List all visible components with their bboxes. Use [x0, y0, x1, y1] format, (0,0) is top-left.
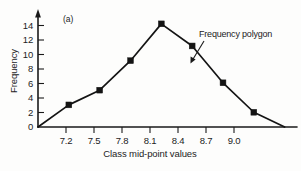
- y-tick-label-6: 6: [28, 78, 33, 89]
- y-tick-label-12: 12: [23, 34, 33, 45]
- y-axis-tick-labels: 14 12 10 8 6 4 2 0: [23, 20, 33, 133]
- y-tick-label-14: 14: [23, 20, 33, 31]
- data-point-marker: [97, 87, 103, 93]
- frequency-polygon-figure: 14 12 10 8 6 4 2 0 7.2 7.5 7.8 8.1 8.4 8…: [0, 0, 301, 171]
- x-axis-ticks: [66, 127, 234, 133]
- x-tick-label-8-7: 8.7: [200, 135, 213, 146]
- x-axis-title: Class mid-point values: [103, 148, 197, 159]
- y-tick-label-8: 8: [28, 63, 33, 74]
- panel-label: (a): [63, 14, 74, 24]
- y-axis-title: Frequency: [8, 49, 19, 93]
- x-tick-label-8-1: 8.1: [144, 135, 157, 146]
- annotation-arrowhead: [191, 57, 196, 64]
- x-axis-tick-labels: 7.2 7.5 7.8 8.1 8.4 8.7 9.0: [60, 135, 241, 146]
- data-point-marker: [66, 102, 72, 108]
- y-tick-label-2: 2: [28, 107, 33, 118]
- x-tick-label-7-5: 7.5: [88, 135, 101, 146]
- data-point-marker: [128, 58, 134, 64]
- x-tick-label-7-8: 7.8: [116, 135, 129, 146]
- frequency-polygon-line: [38, 24, 285, 127]
- y-tick-label-4: 4: [28, 92, 33, 103]
- x-tick-label-7-2: 7.2: [60, 135, 73, 146]
- x-tick-label-8-4: 8.4: [172, 135, 185, 146]
- annotation-label: Frequency polygon: [199, 29, 272, 39]
- data-point-marker: [189, 43, 195, 49]
- chart-canvas: 14 12 10 8 6 4 2 0 7.2 7.5 7.8 8.1 8.4 8…: [0, 0, 301, 171]
- y-tick-label-10: 10: [23, 49, 33, 60]
- x-tick-label-9-0: 9.0: [228, 135, 241, 146]
- data-point-marker: [158, 21, 164, 27]
- data-point-marker: [220, 80, 226, 86]
- y-tick-label-0: 0: [28, 121, 33, 132]
- y-axis: [35, 9, 41, 127]
- y-axis-arrowhead: [35, 9, 41, 18]
- data-point-marker: [251, 109, 257, 115]
- y-axis-ticks: [38, 26, 44, 113]
